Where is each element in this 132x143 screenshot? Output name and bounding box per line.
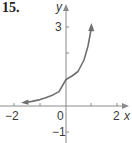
y-tick-3: 3	[55, 21, 62, 33]
y-axis-arrow-icon	[63, 4, 69, 11]
curve-arrow-lower-icon	[21, 100, 29, 105]
x-tick-2: 2	[113, 110, 120, 122]
x-tick-neg2: −2	[5, 110, 19, 122]
y-axis-label: y	[56, 1, 62, 13]
curve-arrow-upper-icon	[88, 23, 94, 31]
y-tick-neg1: −1	[52, 126, 66, 138]
exponential-curve	[26, 30, 91, 102]
x-axis-label: x	[124, 110, 130, 122]
x-tick-0: 0	[57, 110, 64, 122]
